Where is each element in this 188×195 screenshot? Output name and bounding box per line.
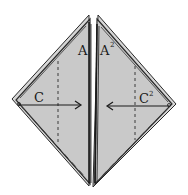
label-c: C [34,90,44,105]
label-a2-superscript: 2 [110,41,114,49]
label-a: A [77,43,88,58]
label-a2: A [99,43,110,58]
label-c2: C [139,91,149,106]
origami-diagram: A A 2 C C 2 [0,0,188,195]
label-c2-superscript: 2 [149,90,153,98]
